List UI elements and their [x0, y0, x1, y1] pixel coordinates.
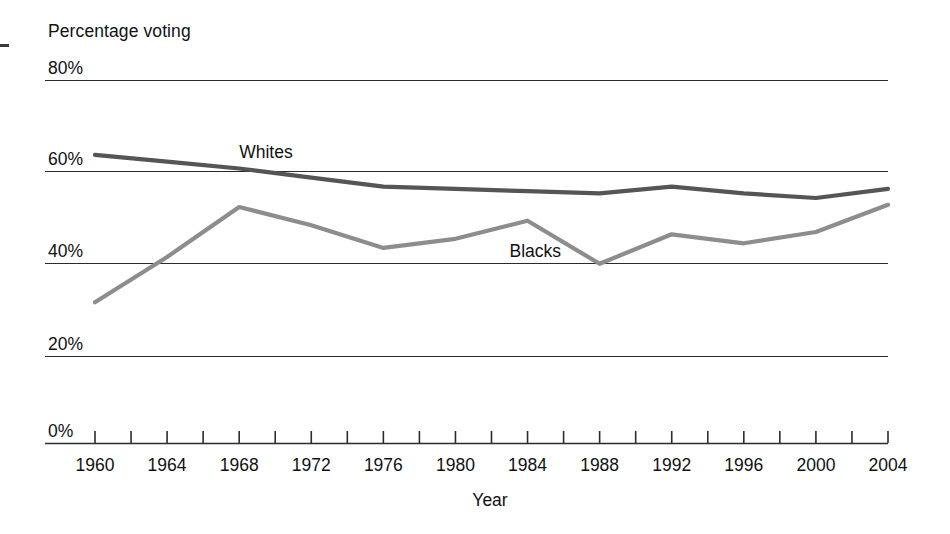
x-tick-label-1992: 1992	[652, 455, 691, 476]
x-tick-label-1968: 1968	[220, 455, 259, 476]
voter-turnout-line-chart: Percentage voting 80%60%40%20%0% 1960196…	[0, 0, 950, 534]
series-line-blacks	[95, 205, 888, 302]
series-label-whites: Whites	[239, 142, 292, 163]
y-tick-label-60: 60%	[48, 149, 83, 170]
x-axis-title-text: Year	[442, 490, 507, 510]
x-tick-label-1988: 1988	[580, 455, 619, 476]
plot-area	[0, 0, 950, 534]
series-label-blacks: Blacks	[510, 241, 562, 262]
y-tick-label-0: 0%	[48, 421, 73, 442]
x-tick-label-1980: 1980	[436, 455, 475, 476]
series-lines	[95, 155, 888, 302]
y-tick-label-80: 80%	[48, 58, 83, 79]
x-tick-label-1964: 1964	[148, 455, 187, 476]
x-tick-label-1976: 1976	[364, 455, 403, 476]
gridlines	[45, 81, 888, 444]
x-tick-label-2004: 2004	[869, 455, 908, 476]
series-line-whites	[95, 155, 888, 198]
x-axis	[95, 431, 888, 443]
x-tick-label-1984: 1984	[508, 455, 547, 476]
x-tick-label-2000: 2000	[796, 455, 835, 476]
x-tick-label-1960: 1960	[76, 455, 115, 476]
x-tick-label-1972: 1972	[292, 455, 331, 476]
x-axis-title: Year	[0, 490, 950, 511]
x-tick-label-1996: 1996	[724, 455, 763, 476]
y-tick-label-40: 40%	[48, 241, 83, 262]
y-tick-label-20: 20%	[48, 334, 83, 355]
